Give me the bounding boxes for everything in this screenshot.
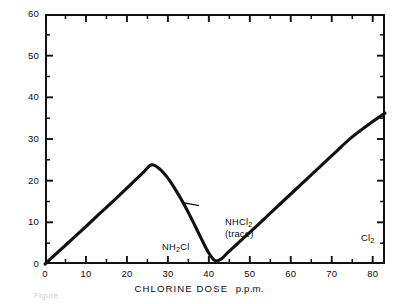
x-tick-label: 30 [153,269,183,279]
chart-canvas [45,14,385,264]
y-tick-label: 50 [13,51,39,61]
x-tick-label: 70 [317,269,347,279]
annotation-nh2cl: NH2Cl [162,242,189,254]
plot-area: 0102030405060 01020304050607080 NH2Cl NH… [45,14,385,264]
x-tick-label: 60 [276,269,306,279]
axis-ticks [45,14,385,264]
figure-caption: Figure [34,291,58,300]
y-tick-label: 0 [13,259,39,269]
x-tick-label: 20 [112,269,142,279]
y-tick-label: 40 [13,92,39,102]
x-axis-title-main: CHLORINE DOSE [134,283,228,294]
y-tick-label: 30 [13,134,39,144]
y-tick-label: 10 [13,217,39,227]
x-tick-label: 10 [71,269,101,279]
x-axis-title-unit: p.p.m. [236,283,264,294]
y-tick-label: 60 [13,9,39,19]
chart-figure: 0102030405060 01020304050607080 NH2Cl NH… [0,0,398,304]
y-tick-label: 20 [13,176,39,186]
x-tick-label: 50 [235,269,265,279]
annotation-cl2: Cl2 [361,233,374,245]
x-tick-label: 80 [358,269,388,279]
x-tick-label: 0 [30,269,60,279]
x-axis-title: CHLORINE DOSE p.p.m. [0,283,398,294]
x-tick-label: 40 [194,269,224,279]
breakpoint-curve [45,113,385,264]
annotation-nhcl2: NHCl2(trace) [225,217,254,240]
